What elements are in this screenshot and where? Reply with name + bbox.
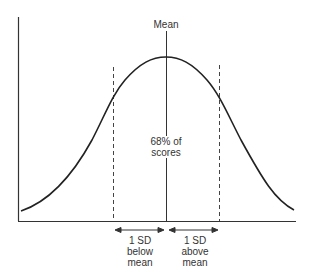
above-line-3: mean <box>170 257 220 268</box>
above-line-2: above <box>170 246 220 257</box>
percent-line: 68% of <box>136 136 196 147</box>
below-mean-arrow <box>115 228 164 233</box>
below-line-2: below <box>115 246 165 257</box>
above-mean-label: 1 SD above mean <box>170 235 220 268</box>
below-line-3: mean <box>115 257 165 268</box>
percent-scores-label: 68% of scores <box>136 136 196 158</box>
below-mean-label: 1 SD below mean <box>115 235 165 268</box>
normal-curve <box>21 57 294 211</box>
above-mean-arrow <box>169 228 218 233</box>
below-line-1: 1 SD <box>115 235 165 246</box>
above-line-1: 1 SD <box>170 235 220 246</box>
mean-label: Mean <box>146 19 186 30</box>
scores-line: scores <box>136 147 196 158</box>
